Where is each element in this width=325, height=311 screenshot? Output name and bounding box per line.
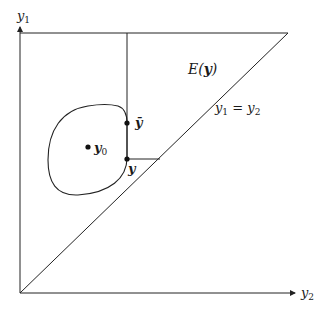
point-ybar [124, 120, 129, 125]
y2-axis-label: y2 [300, 285, 314, 302]
region-label: E(y) [187, 61, 217, 77]
y-label: y [127, 161, 137, 176]
diagram-canvas: y1 y2 E(y) y1 = y2 y0 ȳ y [0, 0, 325, 311]
closed-curve [48, 105, 127, 196]
diagonal-label: y1 = y2 [214, 100, 260, 117]
diagonal-line [20, 33, 288, 293]
y1-axis-label: y1 [16, 8, 30, 25]
ybar-label: ȳ [134, 115, 144, 130]
point-y0 [85, 144, 90, 149]
y0-label: y0 [93, 140, 108, 157]
